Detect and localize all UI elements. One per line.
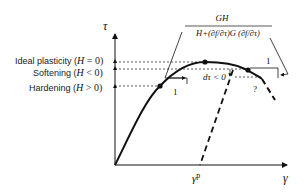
plasticity-diagram: 1 1 dτ < 0 ? GH H+(∂f/∂τ)G (∂f/∂τ) τ γ γ… [0,0,304,193]
formula-denominator: H+(∂f/∂τ)G (∂f/∂τ) [195,28,260,38]
softening-tail-curve [262,79,275,100]
unloading-line [200,70,233,165]
softening-point [245,67,250,72]
x-axis-label: γ [283,171,288,185]
hardening-label: Hardening (H > 0) [29,82,102,94]
ideal-plasticity-label: Ideal plasticity (H = 0) [15,55,103,67]
ideal-tick-icon [113,59,117,63]
plastic-strain-label: γp [192,171,200,184]
stress-strain-curve [115,62,262,165]
formula-numerator: GH [216,13,229,23]
y-axis-label: τ [103,19,108,33]
slope-left-label: 1 [173,87,178,97]
softening-label: Softening (H < 0) [33,67,103,79]
dtau-label: dτ < 0 [203,72,226,82]
softening-tick-icon [113,66,117,70]
hardening-point [157,83,162,88]
formula-leader-left [165,32,182,78]
slope-triangle-right [250,68,278,78]
question-label: ? [253,84,257,94]
slope-right-label: 1 [266,56,271,66]
formula-leader-right [270,38,288,75]
peak-point [202,59,207,64]
